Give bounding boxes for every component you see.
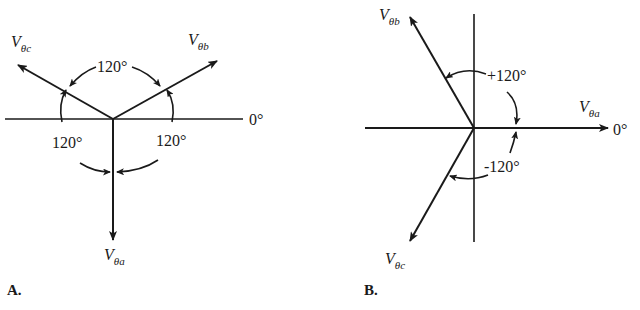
angle-label-positive: +120° — [487, 67, 526, 84]
vector-label-v-theta-a-b: Vθa — [579, 98, 600, 119]
angle-arc-positive-to-b — [446, 71, 486, 78]
angle-arc-top-right — [132, 67, 160, 86]
angle-label-lower-left: 120° — [52, 134, 82, 151]
panel-label-b: B. — [364, 282, 378, 298]
vector-label-v-theta-c: Vθc — [11, 33, 31, 54]
vector-v-theta-c-arrow-b — [410, 128, 474, 241]
angle-arc-negative-to-a — [510, 132, 516, 153]
vector-v-theta-b-arrow-b — [410, 17, 474, 128]
angle-arc-right-down — [117, 160, 158, 172]
panel-label-a: A. — [7, 282, 22, 298]
vector-label-v-theta-b: Vθb — [188, 31, 209, 52]
diagram-a: 0° Vθc Vθb Vθa 120° 120° 120° A. — [5, 31, 263, 298]
angle-label-negative: -120° — [484, 158, 520, 175]
zero-degree-label-b: 0° — [613, 121, 627, 138]
angle-arc-right-up — [167, 90, 173, 122]
vector-label-v-theta-b-b: Vθb — [379, 6, 400, 27]
vector-label-v-theta-a: Vθa — [104, 246, 125, 267]
vector-v-theta-b-arrow — [113, 61, 217, 119]
angle-arc-top-left — [70, 67, 96, 86]
vector-label-v-theta-c-b: Vθc — [385, 250, 405, 271]
zero-degree-label-a: 0° — [249, 111, 263, 128]
angle-arc-negative-to-c — [450, 175, 488, 179]
angle-arc-left-down — [80, 163, 110, 172]
angle-arc-left-up — [61, 90, 66, 122]
angle-label-lower-right: 120° — [156, 132, 186, 149]
phasor-diagrams: 0° Vθc Vθb Vθa 120° 120° 120° A. 0° — [0, 0, 640, 310]
angle-arc-positive-to-a — [507, 92, 517, 124]
angle-label-top: 120° — [97, 58, 127, 75]
diagram-b: 0° Vθb Vθa Vθc +120° -120° B. — [364, 6, 627, 298]
